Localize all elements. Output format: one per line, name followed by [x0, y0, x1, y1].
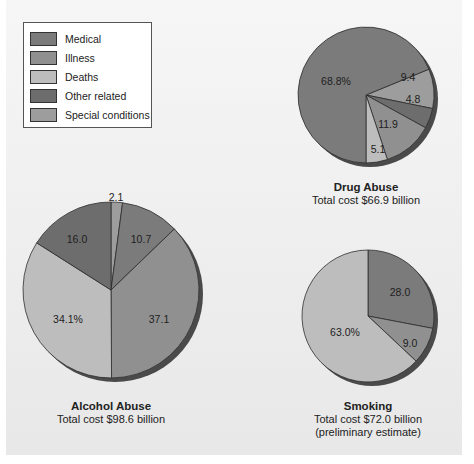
slice-label-other: 16.0: [67, 233, 88, 245]
slice-label-deaths: 5.1: [371, 143, 386, 155]
slice-label-illness: 11.9: [378, 118, 398, 130]
slice-label-deaths: 34.1%: [53, 313, 83, 325]
slice-label-other: 4.8: [406, 93, 421, 105]
smoking-estimate-note: (preliminary estimate): [290, 426, 446, 439]
pie-charts: 9.44.811.95.168.8% 2.110.737.134.1%16.0 …: [0, 0, 474, 464]
slice-label-illness: 37.1: [149, 313, 170, 325]
drug-abuse-caption: Drug Abuse Total cost $66.9 billion: [290, 181, 442, 207]
slice-label-medical: 28.0: [390, 286, 411, 298]
drug-abuse-title: Drug Abuse: [290, 181, 442, 194]
smoking-title: Smoking: [290, 400, 446, 413]
alcohol-abuse-pie: 2.110.737.134.1%16.0: [23, 191, 203, 382]
alcohol-abuse-title: Alcohol Abuse: [30, 400, 192, 413]
slice-label-special: 2.1: [109, 191, 124, 203]
alcohol-abuse-total-cost: Total cost $98.6 billion: [30, 413, 192, 426]
smoking-caption: Smoking Total cost $72.0 billion (prelim…: [290, 400, 446, 439]
drug-abuse-total-cost: Total cost $66.9 billion: [290, 194, 442, 207]
slice-label-medical: 68.8%: [321, 75, 351, 87]
slice-label-special: 9.4: [401, 71, 416, 83]
slice-label-medical: 10.7: [131, 233, 152, 245]
smoking-pie: 28.09.063.0%: [302, 250, 438, 386]
slice-label-illness: 9.0: [403, 337, 418, 349]
drug-abuse-pie: 9.44.811.95.168.8%: [298, 27, 438, 167]
smoking-total-cost: Total cost $72.0 billion: [290, 413, 446, 426]
alcohol-abuse-caption: Alcohol Abuse Total cost $98.6 billion: [30, 400, 192, 426]
slice-label-deaths: 63.0%: [330, 326, 360, 338]
